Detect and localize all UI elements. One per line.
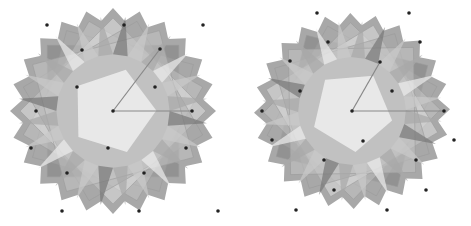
lattice-dot xyxy=(315,11,319,15)
lattice-dot xyxy=(288,59,292,63)
right-rosette-figure xyxy=(235,0,471,226)
lattice-dot xyxy=(216,209,220,213)
left-rosette-diagram xyxy=(0,0,235,226)
lattice-dot xyxy=(350,109,354,113)
lattice-dot xyxy=(414,158,418,162)
lattice-dot xyxy=(190,109,194,113)
lattice-dot xyxy=(75,85,79,89)
lattice-dot xyxy=(260,109,264,113)
lattice-dot xyxy=(294,208,298,212)
lattice-dot xyxy=(201,23,205,27)
lattice-dot xyxy=(111,109,115,113)
lattice-dot xyxy=(322,158,326,162)
lattice-dot xyxy=(424,188,428,192)
lattice-dot xyxy=(80,48,84,52)
lattice-dot xyxy=(390,89,394,93)
lattice-dot xyxy=(142,171,146,175)
lattice-dot xyxy=(106,146,110,150)
lattice-dot xyxy=(407,11,411,15)
right-rosette-diagram xyxy=(235,0,470,226)
lattice-dot xyxy=(137,209,141,213)
lattice-dot xyxy=(298,89,302,93)
lattice-dot xyxy=(326,40,330,44)
lattice-dot xyxy=(378,60,382,64)
lattice-dot xyxy=(270,138,274,142)
lattice-dot xyxy=(361,139,365,143)
lattice-dot xyxy=(122,23,126,27)
lattice-dot xyxy=(60,209,64,213)
lattice-dot xyxy=(29,146,33,150)
lattice-dot xyxy=(184,146,188,150)
lattice-dot xyxy=(442,109,446,113)
left-rosette-figure xyxy=(0,0,235,226)
lattice-dot xyxy=(452,138,456,142)
lattice-dot xyxy=(65,171,69,175)
lattice-dot xyxy=(34,109,38,113)
lattice-dot xyxy=(418,40,422,44)
lattice-dot xyxy=(45,23,49,27)
lattice-dot xyxy=(385,208,389,212)
lattice-dot xyxy=(153,85,157,89)
lattice-dot xyxy=(158,47,162,51)
lattice-dot xyxy=(332,188,336,192)
